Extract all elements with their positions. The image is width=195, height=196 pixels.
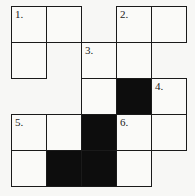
crossword-cell[interactable]: 3.: [81, 42, 117, 79]
crossword-cell[interactable]: [46, 6, 82, 43]
crossword-cell[interactable]: [116, 150, 152, 187]
crossword-cell[interactable]: 5.: [11, 114, 47, 151]
crossword-cell[interactable]: [11, 150, 47, 187]
crossword-cell[interactable]: 4.: [151, 78, 187, 115]
crossword-cell[interactable]: [11, 42, 47, 79]
crossword-cell[interactable]: 1.: [11, 6, 47, 43]
crossword-cell[interactable]: [151, 6, 187, 43]
crossword-grid: 1.2.3.4.5.6.: [11, 6, 186, 186]
clue-number: 5.: [15, 117, 23, 128]
clue-number: 4.: [155, 81, 163, 92]
crossword-cell[interactable]: [151, 114, 187, 151]
crossword-cell[interactable]: 2.: [116, 6, 152, 43]
crossword-cell[interactable]: [81, 78, 117, 115]
black-cell: [46, 150, 82, 187]
clue-number: 1.: [15, 9, 23, 20]
crossword-cell[interactable]: [116, 42, 152, 79]
crossword-cell[interactable]: 6.: [116, 114, 152, 151]
black-cell: [116, 78, 152, 115]
black-cell: [81, 150, 117, 187]
clue-number: 3.: [85, 45, 93, 56]
clue-number: 2.: [120, 9, 128, 20]
clue-number: 6.: [120, 117, 128, 128]
crossword-cell[interactable]: [46, 114, 82, 151]
black-cell: [81, 114, 117, 151]
